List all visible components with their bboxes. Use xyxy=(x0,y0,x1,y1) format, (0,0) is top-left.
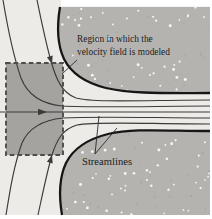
top-margin xyxy=(61,0,212,7)
right-margin xyxy=(210,0,212,219)
region-label-line1: Region in which the xyxy=(77,33,170,46)
region-label: Region in which the velocity field is mo… xyxy=(77,33,170,58)
streamline-diagram: Region in which the velocity field is mo… xyxy=(0,0,212,219)
region-label-line2: velocity field is modeled xyxy=(77,46,170,59)
modeled-region-fill xyxy=(6,63,63,155)
bottom-margin xyxy=(0,215,212,219)
streamlines-label: Streamlines xyxy=(82,156,132,168)
